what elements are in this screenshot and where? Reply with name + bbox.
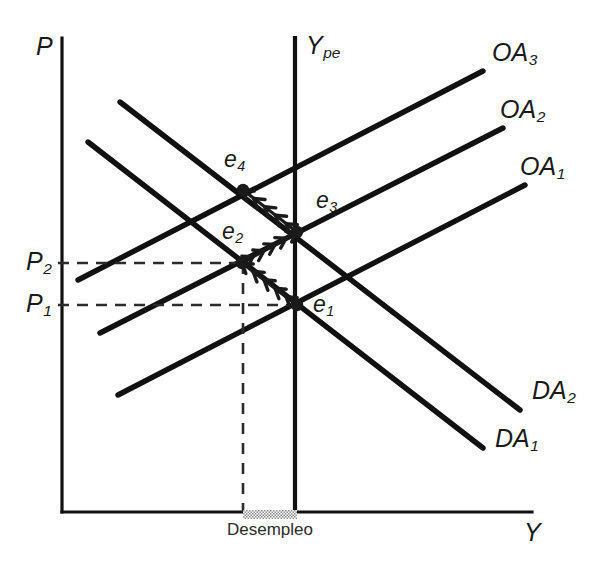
unemployment-gap-label: Desempleo (227, 520, 313, 540)
arrowhead-barb (275, 215, 286, 216)
equilibrium-point-e3 (291, 226, 303, 238)
adjustment-path-arrows (242, 190, 298, 307)
equilibrium-point-e1 (291, 299, 303, 311)
arrow-shaft-e1-to-e2 (242, 263, 297, 305)
curve-label-DA2: DA2 (532, 376, 576, 407)
curve-label-OA3: OA3 (492, 38, 537, 69)
dashed-guides-group (58, 263, 297, 512)
equilibrium-label-e1: e1 (313, 291, 334, 319)
arrowhead-barb (265, 207, 276, 208)
diagram-canvas: PYYpeP2P1OA1OA2OA3DA1DA2e1e2e3e4Desemple… (0, 0, 600, 567)
arrowhead-barb (286, 297, 297, 298)
x-axis-label: Y (524, 518, 541, 547)
price-level-label-P2: P2 (26, 247, 52, 278)
curve-label-DA1: DA1 (495, 424, 539, 455)
ad-as-diagram-svg (0, 0, 600, 567)
arrowhead-barb (264, 280, 275, 281)
curve-label-OA2: OA2 (500, 95, 545, 126)
y-axis-label: P (36, 32, 53, 61)
price-level-label-P1: P1 (26, 289, 52, 320)
arrow-shaft-e3-to-e4 (243, 190, 297, 232)
arrowhead-barb (275, 288, 286, 289)
equilibrium-label-e4: e4 (224, 146, 245, 174)
curve-label-OA1: OA1 (520, 152, 565, 183)
arrowhead-barb (254, 198, 265, 199)
unemployment-gap-bar (243, 510, 297, 519)
equilibrium-point-e2 (236, 257, 248, 269)
equilibrium-label-e3: e3 (316, 187, 337, 215)
equilibrium-point-e4 (237, 184, 249, 196)
equilibrium-label-e2: e2 (222, 218, 243, 246)
potential-output-label: Ype (306, 31, 340, 62)
arrowhead-barb (253, 271, 264, 272)
arrowhead-barb (286, 224, 297, 225)
